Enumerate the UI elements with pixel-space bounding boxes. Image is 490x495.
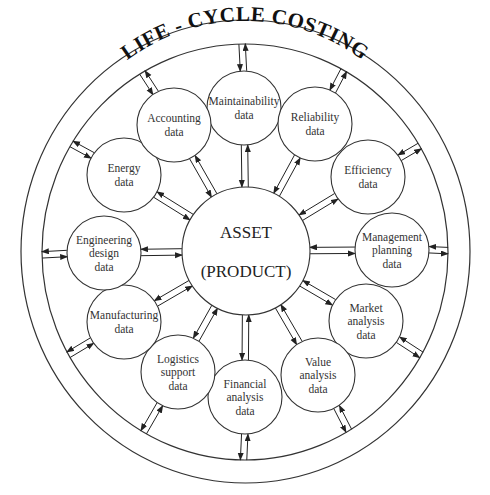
node-label-energy: Energy: [107, 162, 140, 175]
node-label-reliability: Reliability: [291, 111, 340, 124]
node-label-engineering: Engineering: [76, 234, 132, 247]
arrow: [247, 434, 248, 460]
node-label-energy: data: [114, 176, 133, 188]
arrow: [145, 71, 158, 91]
node-label-manufacturing: data: [114, 323, 133, 335]
arrow: [146, 406, 162, 434]
arrow: [339, 406, 351, 430]
node-label-engineering: data: [94, 261, 113, 273]
arrow: [398, 143, 418, 155]
node-label-reliability: data: [305, 125, 324, 137]
arrow: [42, 250, 67, 251]
node-label-engineering: design: [89, 247, 119, 260]
node-label-logistics: Logistics: [157, 353, 200, 366]
arrow: [429, 253, 448, 254]
arrow: [401, 149, 421, 161]
arrow: [73, 141, 94, 152]
arrow: [141, 249, 182, 250]
asset-center-node: [182, 187, 310, 315]
node-label-value: analysis: [299, 369, 337, 382]
arrow: [240, 434, 241, 460]
node-label-market: Market: [349, 302, 383, 314]
node-label-value: Value: [305, 356, 331, 368]
title-arc-text: LIFE - CYCLE COSTING: [116, 2, 373, 64]
arrow: [199, 308, 218, 341]
arrow: [300, 286, 333, 305]
arrow: [70, 147, 91, 158]
node-label-accounting: data: [164, 126, 183, 138]
arrow: [241, 145, 242, 187]
node-label-manufacturing: Manufacturing: [90, 309, 159, 322]
node-label-maintainability: data: [234, 109, 253, 121]
arrow: [400, 337, 423, 352]
node-label-efficiency: Efficiency: [344, 164, 392, 177]
node-label-logistics: support: [161, 366, 196, 379]
node-label-maintainability: Maintainability: [209, 95, 280, 108]
arrow: [42, 257, 67, 258]
arrow: [70, 343, 94, 357]
arrow: [245, 44, 246, 71]
arrow: [141, 403, 157, 431]
arrow: [239, 44, 240, 71]
arrow: [396, 342, 419, 357]
arrow: [141, 255, 182, 256]
arrow: [334, 408, 346, 432]
node-label-logistics: data: [168, 380, 187, 392]
node-label-financial: Financial: [224, 378, 267, 390]
node-label-market: data: [356, 329, 375, 341]
arrow: [67, 338, 91, 352]
arrow: [429, 247, 448, 248]
node-label-market: analysis: [347, 315, 385, 328]
node-label-management: planning: [372, 244, 412, 257]
node-label-efficiency: data: [358, 178, 377, 190]
arrow: [140, 74, 153, 94]
node-label-financial: data: [235, 405, 254, 417]
center-label-line2: (PRODUCT): [201, 262, 292, 281]
node-label-financial: analysis: [226, 391, 264, 404]
node-label-management: Management: [362, 231, 423, 244]
life-cycle-costing-diagram: LIFE - CYCLE COSTING Maintainabilitydata…: [0, 0, 490, 495]
node-label-value: data: [308, 383, 327, 395]
node-label-accounting: Accounting: [147, 112, 201, 125]
arrow: [193, 305, 212, 338]
node-label-management: data: [382, 258, 401, 270]
center-label-line1: ASSET: [220, 223, 273, 242]
arrow: [248, 145, 249, 187]
arrow: [303, 280, 336, 299]
